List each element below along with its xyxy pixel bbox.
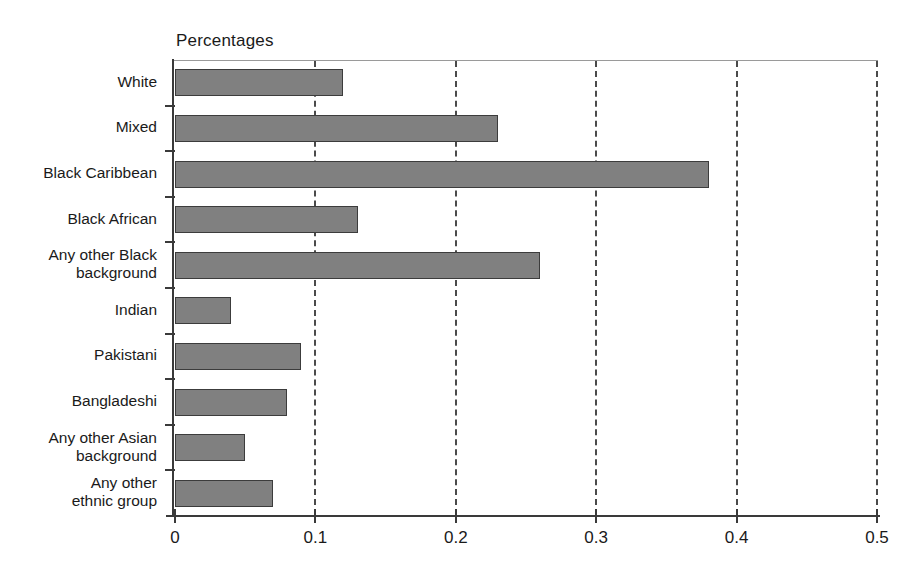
axis-title: Percentages xyxy=(176,31,274,51)
y-axis-label-line: Black African xyxy=(0,210,157,228)
y-axis-label-line: Bangladeshi xyxy=(0,392,157,410)
y-axis-label-line: Pakistani xyxy=(0,346,157,364)
x-axis-tick-label: 0.3 xyxy=(566,528,626,548)
y-axis-tick xyxy=(165,424,175,426)
y-axis-tick xyxy=(165,105,175,107)
y-axis-tick xyxy=(165,333,175,335)
y-axis-label: White xyxy=(0,73,157,91)
x-axis-tick-label: 0.4 xyxy=(707,528,767,548)
y-axis-tick xyxy=(165,241,175,243)
bar xyxy=(175,206,358,233)
y-axis-tick xyxy=(165,469,175,471)
bar xyxy=(175,480,273,507)
bar xyxy=(175,161,709,188)
y-axis-label: Any otherethnic group xyxy=(0,474,157,510)
y-axis-label: Any other Asianbackground xyxy=(0,429,157,465)
x-axis-tick-label: 0.1 xyxy=(285,528,345,548)
x-axis-tick-label: 0 xyxy=(145,528,205,548)
bar xyxy=(175,252,540,279)
y-axis-label-line: Indian xyxy=(0,301,157,319)
bar xyxy=(175,389,287,416)
bar xyxy=(175,343,301,370)
y-axis-label: Pakistani xyxy=(0,346,157,364)
y-axis-tick xyxy=(165,196,175,198)
bar xyxy=(175,434,245,461)
y-axis-label: Black Caribbean xyxy=(0,164,157,182)
chart-container: Percentages WhiteMixedBlack CaribbeanBla… xyxy=(0,0,916,579)
y-axis-label-line: Black Caribbean xyxy=(0,164,157,182)
y-axis-label-line: White xyxy=(0,73,157,91)
y-axis-tick xyxy=(165,150,175,152)
y-axis-label-line: Any other xyxy=(0,474,157,492)
x-axis-tick-label: 0.2 xyxy=(426,528,486,548)
y-axis-tick xyxy=(165,287,175,289)
plot-area xyxy=(175,60,877,516)
y-axis-tick xyxy=(165,378,175,380)
y-axis-label-group: WhiteMixedBlack CaribbeanBlack AfricanAn… xyxy=(0,0,165,579)
bar xyxy=(175,297,231,324)
y-axis-label-line: background xyxy=(0,264,157,282)
y-axis-label-line: background xyxy=(0,447,157,465)
y-axis-label-line: ethnic group xyxy=(0,492,157,510)
y-axis-label-line: Mixed xyxy=(0,118,157,136)
y-axis-label: Mixed xyxy=(0,118,157,136)
y-axis-label: Indian xyxy=(0,301,157,319)
x-axis-tick-label: 0.5 xyxy=(847,528,907,548)
y-axis-label: Bangladeshi xyxy=(0,392,157,410)
y-axis-label-line: Any other Asian xyxy=(0,429,157,447)
y-axis-label: Any other Blackbackground xyxy=(0,246,157,282)
y-axis-label: Black African xyxy=(0,210,157,228)
bar xyxy=(175,69,343,96)
bar xyxy=(175,115,498,142)
y-axis-label-line: Any other Black xyxy=(0,246,157,264)
